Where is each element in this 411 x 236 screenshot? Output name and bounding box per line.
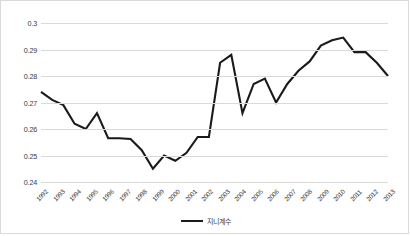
gridline — [41, 182, 388, 183]
gridline — [41, 156, 388, 157]
x-axis-tick-label: 2013 — [382, 188, 396, 202]
y-axis-tick-label: 0.29 — [24, 45, 37, 54]
x-axis-tick-label: 2006 — [266, 188, 280, 202]
x-axis-tick-label: 1993 — [51, 188, 65, 202]
x-axis-tick-label: 1999 — [150, 188, 164, 202]
legend-label: 지니계수 — [207, 216, 231, 226]
x-axis-tick-label: 1992 — [35, 188, 49, 202]
x-axis-tick-label: 2010 — [332, 188, 346, 202]
y-axis-tick-label: 0.26 — [24, 125, 37, 134]
y-axis-tick-label: 0.3 — [28, 19, 37, 28]
x-axis-tick-label: 2005 — [249, 188, 263, 202]
x-axis-tick-label: 1998 — [134, 188, 148, 202]
gridline — [41, 50, 388, 51]
chart-container: 0.240.250.260.270.280.290.3 199219931994… — [0, 0, 409, 234]
x-axis-tick-label: 2008 — [299, 188, 313, 202]
y-axis-tick-label: 0.28 — [24, 72, 37, 81]
x-axis-tick-label: 1994 — [68, 188, 82, 202]
y-axis-labels: 0.240.250.260.270.280.290.3 — [1, 23, 37, 182]
legend-line-swatch — [181, 220, 203, 222]
x-axis-tick-label: 1997 — [117, 188, 131, 202]
gridline — [41, 76, 388, 77]
y-axis-tick-label: 0.25 — [24, 151, 37, 160]
x-axis-tick-label: 2002 — [200, 188, 214, 202]
x-axis-tick-label: 2012 — [365, 188, 379, 202]
y-axis-tick-label: 0.27 — [24, 98, 37, 107]
x-axis-tick-label: 2003 — [216, 188, 230, 202]
x-axis-tick-label: 1995 — [84, 188, 98, 202]
x-axis-tick-label: 2007 — [282, 188, 296, 202]
x-axis-tick-label: 1996 — [101, 188, 115, 202]
x-axis-tick-label: 2009 — [316, 188, 330, 202]
gridline — [41, 129, 388, 130]
chart-legend: 지니계수 — [1, 213, 410, 229]
x-axis-tick-label: 2004 — [233, 188, 247, 202]
gridline — [41, 103, 388, 104]
x-axis-tick-label: 2000 — [167, 188, 181, 202]
x-axis-tick-label: 2001 — [183, 188, 197, 202]
x-axis-tick-label: 2011 — [349, 188, 363, 202]
plot-area — [41, 23, 388, 182]
gridline — [41, 23, 388, 24]
y-axis-tick-label: 0.24 — [24, 178, 37, 187]
